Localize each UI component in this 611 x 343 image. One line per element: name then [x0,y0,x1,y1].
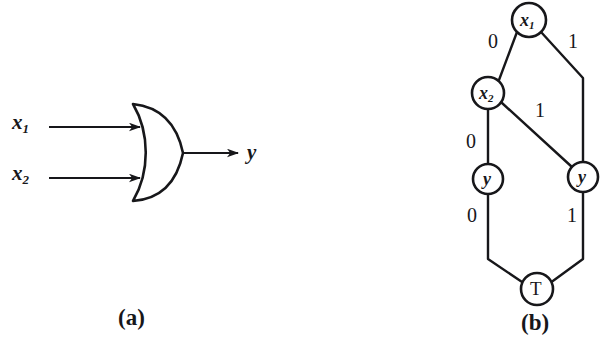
node-label-y-right: y [578,168,586,186]
edge-label-y-left-low: 0 [467,205,477,225]
input-label-x1-base: x [12,110,23,134]
edge-label-x1-low: 0 [488,31,498,51]
node-label-x1: x1 [520,11,535,31]
edge-y-right-to-terminal [546,192,583,286]
edge-label-x2-high: 1 [535,100,545,120]
node-label-y-left-base: y [483,169,491,189]
figure-vector-layer: x2 --> (bend) --> y_right : polyline -->… [0,0,611,343]
node-label-x2-sub: 2 [488,92,494,104]
edge-y-left-to-terminal [488,194,528,286]
edge-x1-to-x2 [499,32,517,80]
output-label-y-base: y [247,140,256,164]
input-label-x2: x2 [12,163,29,186]
input-label-x2-sub: 2 [23,172,30,187]
edge-label-y-right-high: 1 [567,205,577,225]
output-label-y: y [247,142,256,163]
node-label-terminal-base: T [530,278,542,299]
edge-label-x1-high: 1 [568,31,578,51]
node-label-x1-base: x [520,10,529,30]
panel-b-caption: (b) [521,311,549,334]
node-label-y-left: y [483,170,491,188]
or-gate-body [133,104,183,201]
or-gate-symbol [133,104,183,201]
node-label-terminal: T [530,279,542,298]
edge-label-x2-low: 0 [466,131,476,151]
input-label-x1-sub: 1 [23,121,30,136]
panel-a-caption: (a) [118,306,145,329]
node-label-x2-base: x [479,83,488,103]
node-label-y-right-base: y [578,167,586,187]
figure-root: x2 --> (bend) --> y_right : polyline -->… [0,0,611,343]
input-label-x1: x1 [12,112,29,135]
node-label-x2: x2 [479,84,494,104]
node-label-x1-sub: 1 [529,19,535,31]
input-label-x2-base: x [12,161,23,185]
